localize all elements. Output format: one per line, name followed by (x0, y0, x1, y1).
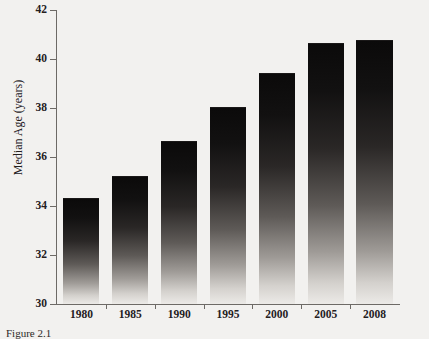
x-tick-label: 1995 (205, 308, 251, 321)
bar (63, 198, 99, 304)
y-tick-label: 32 (23, 249, 47, 261)
bar (356, 40, 392, 304)
bar (210, 107, 246, 304)
y-tick-mark (50, 10, 57, 11)
x-tick-mark (252, 304, 253, 309)
x-tick-label: 2005 (303, 308, 349, 321)
y-axis-title: Median Age (years) (11, 48, 26, 208)
figure-caption: Figure 2.1 (6, 327, 51, 339)
y-tick-mark (50, 59, 57, 60)
bar (112, 176, 148, 304)
y-tick-label: 40 (23, 53, 47, 65)
x-tick-label: 2008 (352, 308, 398, 321)
bar (259, 73, 295, 304)
x-tick-label: 1985 (107, 308, 153, 321)
y-tick-label: 36 (23, 151, 47, 163)
y-tick-label: 42 (23, 4, 47, 16)
x-tick-label: 1980 (58, 308, 104, 321)
y-tick-mark (50, 108, 57, 109)
bar (161, 141, 197, 304)
y-tick-label: 30 (23, 298, 47, 310)
bar-series (57, 10, 399, 304)
x-axis-line (56, 304, 400, 305)
y-tick-mark (50, 157, 57, 158)
x-tick-label: 2000 (254, 308, 300, 321)
y-tick-mark (50, 255, 57, 256)
x-tick-label: 1990 (156, 308, 202, 321)
y-tick-label: 38 (23, 102, 47, 114)
y-tick-mark (50, 304, 57, 305)
y-tick-label: 34 (23, 200, 47, 212)
y-tick-mark (50, 206, 57, 207)
bar (308, 43, 344, 304)
